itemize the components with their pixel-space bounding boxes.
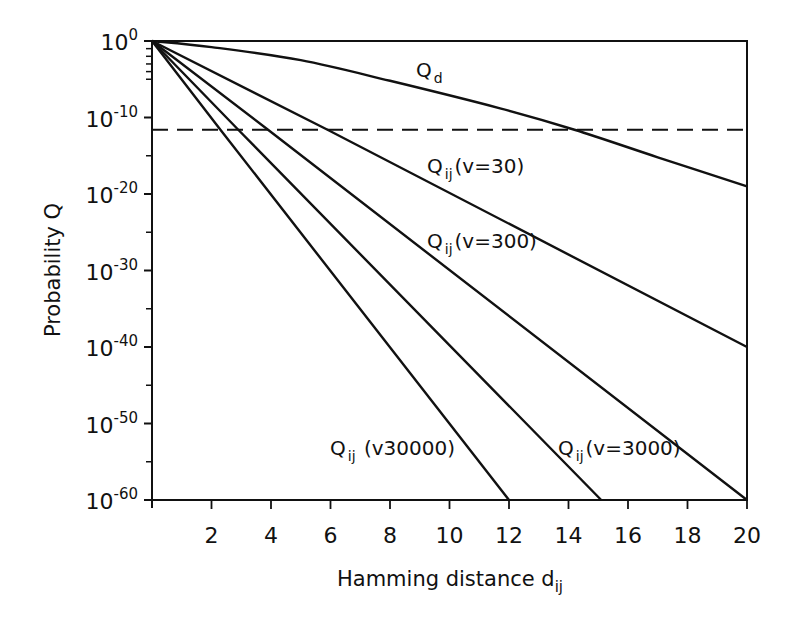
x-axis: 2468101214161820 bbox=[152, 500, 761, 548]
series-line bbox=[152, 41, 747, 347]
y-tick-label: 10-20 bbox=[86, 179, 139, 208]
y-axis: 10010-1010-2010-3010-4010-5010-60 bbox=[86, 26, 153, 514]
x-axis-title-main: Hamming distance d bbox=[337, 567, 555, 591]
x-axis-title-sub: ij bbox=[555, 578, 563, 596]
series-label: Qij(v=300) bbox=[427, 229, 537, 257]
x-tick-label: 6 bbox=[324, 523, 338, 548]
series-label: Qij(v=3000) bbox=[558, 436, 681, 464]
x-tick-label: 8 bbox=[383, 523, 397, 548]
x-tick-label: 20 bbox=[733, 523, 761, 548]
x-tick-label: 2 bbox=[205, 523, 219, 548]
series-label: Qd bbox=[416, 58, 443, 86]
x-tick-label: 4 bbox=[264, 523, 278, 548]
y-tick-label: 10-50 bbox=[86, 409, 139, 438]
x-tick-label: 18 bbox=[674, 523, 702, 548]
x-axis-title: Hamming distance dij bbox=[337, 567, 563, 596]
y-tick-label: 10-40 bbox=[86, 332, 139, 361]
y-tick-label: 10-60 bbox=[86, 485, 139, 514]
x-tick-label: 14 bbox=[555, 523, 583, 548]
y-tick-label: 10-10 bbox=[86, 103, 139, 132]
y-axis-title: Probability Q bbox=[41, 203, 65, 337]
series-line bbox=[152, 41, 509, 500]
series-line bbox=[152, 41, 747, 186]
series-label: Qij (v30000) bbox=[330, 436, 455, 464]
x-tick-label: 12 bbox=[495, 523, 523, 548]
series-line bbox=[152, 41, 601, 500]
series-lines bbox=[152, 41, 747, 500]
series-line bbox=[152, 41, 747, 500]
probability-vs-hamming-chart: 10010-1010-2010-3010-4010-5010-60 246810… bbox=[0, 0, 801, 626]
x-tick-label: 16 bbox=[614, 523, 642, 548]
x-tick-label: 10 bbox=[436, 523, 464, 548]
y-tick-label: 100 bbox=[100, 26, 138, 55]
y-tick-label: 10-30 bbox=[86, 256, 139, 285]
series-label: Qij(v=30) bbox=[427, 154, 524, 182]
